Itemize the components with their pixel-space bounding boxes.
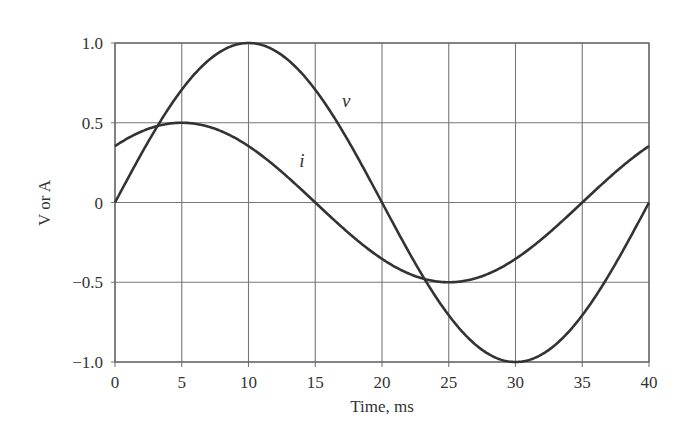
- y-tick-label: 0.5: [82, 114, 103, 133]
- x-tick-label: 40: [641, 373, 658, 392]
- series-i-label: i: [299, 150, 304, 171]
- x-axis-ticks: 0510152025303540: [111, 373, 658, 392]
- grid-lines: [111, 43, 649, 367]
- x-tick-label: 20: [374, 373, 391, 392]
- y-tick-label: 1.0: [82, 34, 103, 53]
- x-axis-label: Time, ms: [350, 397, 414, 416]
- x-tick-label: 35: [574, 373, 591, 392]
- x-tick-label: 5: [178, 373, 187, 392]
- x-tick-label: 25: [440, 373, 457, 392]
- y-axis-label: V or A: [35, 179, 54, 226]
- y-axis-ticks: 1.00.50−0.5−1.0: [72, 34, 103, 372]
- x-tick-label: 10: [240, 373, 257, 392]
- x-tick-label: 0: [111, 373, 120, 392]
- x-tick-label: 30: [507, 373, 524, 392]
- y-tick-label: 0: [95, 194, 104, 213]
- y-tick-label: −1.0: [72, 353, 103, 372]
- y-tick-label: −0.5: [72, 273, 103, 292]
- x-tick-label: 15: [307, 373, 324, 392]
- chart: 0510152025303540 1.00.50−0.5−1.0 vi Time…: [0, 0, 687, 443]
- series-v-label: v: [342, 90, 351, 111]
